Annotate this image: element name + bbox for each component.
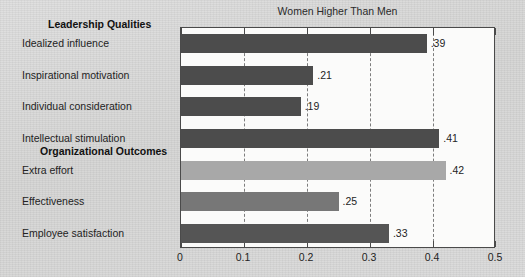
bar-employee-satisfaction[interactable] bbox=[181, 224, 389, 243]
category-label-employee-satisfaction: Employee satisfaction bbox=[22, 227, 124, 239]
chart-title: Women Higher Than Men bbox=[180, 5, 495, 17]
value-label-extra-effort: .42 bbox=[450, 164, 465, 176]
bar-effectiveness[interactable] bbox=[181, 192, 339, 211]
bar-individual-consideration[interactable] bbox=[181, 97, 301, 116]
value-label-individual-consideration: .19 bbox=[305, 100, 320, 112]
bar-chart: Women Higher Than Men Leadership Qualiti… bbox=[0, 0, 525, 277]
bar-inspirational-motivation[interactable] bbox=[181, 66, 313, 85]
toptick-0.5 bbox=[495, 28, 496, 35]
xtick-label-0.5: 0.5 bbox=[488, 251, 503, 263]
value-label-employee-satisfaction: .33 bbox=[393, 227, 408, 239]
category-label-individual-consideration: Individual consideration bbox=[22, 100, 132, 112]
category-label-effectiveness: Effectiveness bbox=[22, 195, 84, 207]
category-label-idealized-influence: Idealized influence bbox=[22, 37, 109, 49]
group-heading-leadership-qualities: Leadership Qualities bbox=[48, 18, 151, 30]
category-label-inspirational-motivation: Inspirational motivation bbox=[22, 69, 129, 81]
group-heading-organizational-outcomes: Organizational Outcomes bbox=[40, 145, 167, 157]
value-label-inspirational-motivation: .21 bbox=[317, 69, 332, 81]
bottick-0.5 bbox=[495, 241, 496, 247]
toptick-0.4 bbox=[433, 28, 434, 35]
bar-extra-effort[interactable] bbox=[181, 161, 446, 180]
bar-intellectual-stimulation[interactable] bbox=[181, 129, 439, 148]
bottick-0.4 bbox=[433, 241, 434, 247]
xtick-label-0.2: 0.2 bbox=[299, 251, 314, 263]
category-label-extra-effort: Extra effort bbox=[22, 164, 73, 176]
bar-idealized-influence[interactable] bbox=[181, 34, 427, 53]
xtick-label-0: 0 bbox=[177, 251, 183, 263]
value-label-effectiveness: .25 bbox=[343, 195, 358, 207]
xtick-label-0.3: 0.3 bbox=[362, 251, 377, 263]
value-label-idealized-influence: .39 bbox=[431, 37, 446, 49]
value-label-intellectual-stimulation: .41 bbox=[443, 132, 458, 144]
category-label-intellectual-stimulation: Intellectual stimulation bbox=[22, 132, 125, 144]
xtick-label-0.4: 0.4 bbox=[425, 251, 440, 263]
xtick-label-0.1: 0.1 bbox=[236, 251, 251, 263]
